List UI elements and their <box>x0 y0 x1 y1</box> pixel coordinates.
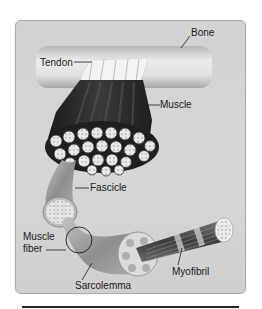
label-sarcolemma: Sarcolemma <box>75 280 131 291</box>
muscle-structure-illustration <box>0 0 262 309</box>
label-muscle-fiber-line2: fiber <box>23 243 42 254</box>
label-fascicle: Fascicle <box>90 182 127 193</box>
label-bone: Bone <box>191 27 214 38</box>
label-tendon: Tendon <box>40 57 73 68</box>
label-myofibril: Myofibril <box>172 266 209 277</box>
fascicle <box>43 160 77 227</box>
bottom-divider <box>22 306 239 308</box>
label-muscle: Muscle <box>160 99 192 110</box>
label-muscle-fiber-line1: Muscle <box>23 231 55 242</box>
